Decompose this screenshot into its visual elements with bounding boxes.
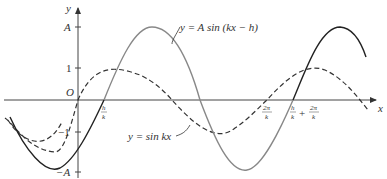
annotation-sin-kx-leader [176,125,190,136]
series-a-sin-kx-minus-h-middle [104,27,293,170]
y-tick-label-a: A [63,21,71,33]
svg-text:+: + [299,107,305,119]
svg-text:h: h [102,104,106,112]
y-axis-label: y [65,2,71,14]
svg-text:2π: 2π [263,104,271,112]
x-tick-h-over-k-plus-2pi-over-k: h k + 2π k [290,104,319,121]
x-tick-h-over-k: h k [101,104,107,121]
y-tick-label-1: 1 [66,62,72,74]
svg-text:k: k [265,113,269,121]
annotation-a-sin-leader [172,27,180,44]
sine-wave-chart: y x O A 1 −1 −A h k 2π k h k + 2π k y = … [0,0,387,179]
annotation-a-sin: y = A sin (kx − h) [179,21,258,34]
x-axis-label: x [377,102,383,114]
svg-text:k: k [291,113,295,121]
svg-text:2π: 2π [310,104,318,112]
origin-label: O [66,86,74,98]
series-a-sin-kx-minus-h-left [10,100,104,169]
annotation-sin-kx: y = sin kx [127,130,171,142]
series-a-sin-kx-minus-h-right [293,27,366,100]
svg-text:k: k [102,113,106,121]
x-tick-2pi-over-k: 2π k [262,104,272,121]
y-tick-label-neg-a: −A [56,166,70,178]
svg-text:k: k [312,113,316,121]
svg-text:h: h [291,104,295,112]
y-tick-label-neg1: −1 [58,126,70,138]
